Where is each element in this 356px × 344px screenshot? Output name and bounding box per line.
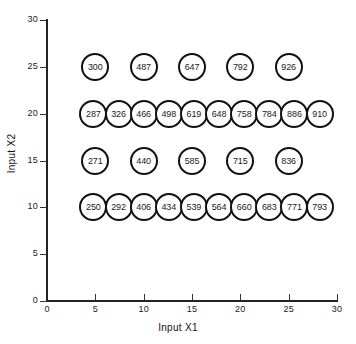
x-tick-mark: [240, 294, 241, 301]
y-tick-mark: [40, 301, 47, 302]
data-point: 300: [81, 53, 109, 81]
data-point: 287: [79, 100, 107, 128]
y-tick-label-text: 5: [16, 248, 38, 258]
x-tick-label: 25: [277, 304, 301, 314]
y-tick-label: 10: [12, 201, 38, 213]
data-point: 487: [130, 53, 158, 81]
data-point: 926: [275, 53, 303, 81]
y-axis-title: Input X2: [6, 109, 17, 199]
y-tick-label: 25: [12, 61, 38, 73]
x-tick-label: 0: [35, 304, 59, 314]
y-tick-mark: [40, 20, 47, 21]
y-tick-mark: [40, 207, 47, 208]
data-point: 715: [226, 147, 254, 175]
x-tick-label: 30: [325, 304, 349, 314]
x-tick-label: 20: [228, 304, 252, 314]
x-tick-mark: [289, 294, 290, 301]
data-point: 440: [130, 147, 158, 175]
plot-area: 051015202530 051015202530 30048764779292…: [0, 0, 356, 344]
y-tick-label-text: 10: [16, 201, 38, 211]
data-point: 619: [180, 100, 208, 128]
data-point: 836: [275, 147, 303, 175]
x-tick-mark: [337, 294, 338, 301]
x-tick-label: 15: [180, 304, 204, 314]
data-point: 539: [180, 193, 208, 221]
data-point: 910: [306, 100, 334, 128]
y-tick-label-text: 30: [16, 14, 38, 24]
data-point: 271: [81, 147, 109, 175]
data-point: 793: [306, 193, 334, 221]
x-tick-mark: [144, 294, 145, 301]
data-point: 784: [255, 100, 283, 128]
y-tick-mark: [40, 114, 47, 115]
scatter-plot-figure: 051015202530 051015202530 30048764779292…: [0, 0, 356, 344]
data-point: 683: [255, 193, 283, 221]
y-tick-mark: [40, 161, 47, 162]
y-tick-label-text: 20: [16, 108, 38, 118]
x-axis-title: Input X1: [0, 322, 356, 333]
data-point: 792: [226, 53, 254, 81]
y-tick-mark: [40, 67, 47, 68]
data-point: 758: [230, 100, 258, 128]
y-tick-label: 5: [12, 248, 38, 260]
x-tick-mark: [192, 294, 193, 301]
y-tick-label-text: 15: [16, 155, 38, 165]
x-tick-mark: [95, 294, 96, 301]
x-tick-label: 10: [132, 304, 156, 314]
data-point: 647: [178, 53, 206, 81]
y-tick-label: 30: [12, 14, 38, 26]
data-point: 771: [280, 193, 308, 221]
data-point: 466: [130, 100, 158, 128]
data-point: 292: [105, 193, 133, 221]
data-point: 498: [155, 100, 183, 128]
data-point: 250: [79, 193, 107, 221]
data-point: 406: [130, 193, 158, 221]
data-point: 660: [230, 193, 258, 221]
x-tick-label: 5: [83, 304, 107, 314]
data-point: 564: [205, 193, 233, 221]
data-point: 434: [155, 193, 183, 221]
data-point: 326: [105, 100, 133, 128]
y-tick-mark: [40, 254, 47, 255]
data-point: 886: [280, 100, 308, 128]
data-point: 585: [178, 147, 206, 175]
y-tick-label-text: 25: [16, 61, 38, 71]
data-point: 648: [205, 100, 233, 128]
